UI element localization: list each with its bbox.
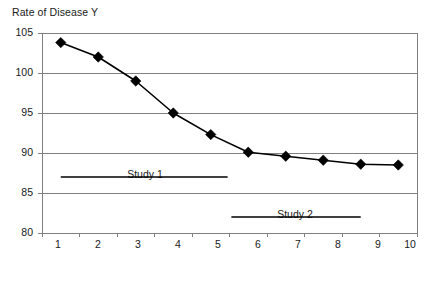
data-point-marker bbox=[206, 129, 216, 139]
data-line bbox=[61, 43, 399, 165]
data-point-marker bbox=[318, 155, 328, 165]
plot-frame bbox=[42, 33, 417, 233]
data-point-marker bbox=[356, 159, 366, 169]
data-point-marker bbox=[243, 147, 253, 157]
data-point-marker bbox=[93, 52, 103, 62]
data-markers bbox=[56, 37, 404, 170]
y-axis-ticks bbox=[38, 33, 42, 233]
chart-container: Rate of Disease Y 105 100 95 90 85 80 1 … bbox=[0, 0, 427, 287]
series-polyline bbox=[61, 43, 399, 165]
annotation-lines bbox=[61, 177, 361, 217]
x-axis-ticks bbox=[42, 233, 417, 237]
data-point-marker bbox=[56, 37, 66, 47]
data-point-marker bbox=[393, 160, 403, 170]
plot-area bbox=[0, 0, 427, 287]
gridlines bbox=[42, 33, 417, 233]
